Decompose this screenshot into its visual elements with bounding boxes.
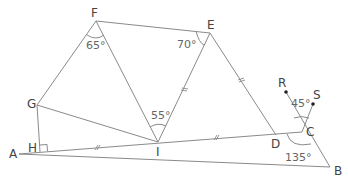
angle-label-RCS: 45° — [291, 97, 311, 110]
label-E: E — [207, 18, 215, 32]
label-C: C — [306, 125, 314, 139]
angle-arc-E — [196, 31, 204, 45]
label-H: H — [28, 141, 37, 155]
segment-GH — [37, 105, 40, 152]
geometry-diagram: F E G H A I D C B R S 65° 70° 55° 45° 13… — [0, 0, 348, 183]
segment-AB — [19, 154, 330, 167]
segment-GI — [37, 105, 158, 142]
tick-ID — [214, 135, 219, 140]
label-G: G — [27, 97, 36, 111]
label-I: I — [156, 145, 160, 159]
label-S: S — [313, 88, 321, 102]
angle-label-I: 55° — [151, 109, 171, 122]
segment-FE — [96, 21, 210, 33]
segment-AC — [19, 132, 302, 154]
point-S — [311, 102, 315, 106]
segment-ED — [210, 33, 276, 135]
point-R — [284, 90, 288, 94]
angle-label-F: 65° — [86, 39, 106, 52]
angle-arc-F — [87, 35, 104, 38]
tick-EI — [181, 88, 188, 91]
angle-arc-I — [150, 124, 166, 127]
right-angle-marker — [40, 145, 48, 152]
label-B: B — [334, 164, 342, 178]
angle-label-DCB: 135° — [285, 151, 312, 164]
angle-label-E: 70° — [177, 38, 197, 51]
label-A: A — [9, 147, 18, 161]
label-R: R — [278, 76, 286, 90]
label-D: D — [271, 137, 280, 151]
label-F: F — [91, 6, 98, 20]
segment-GF — [37, 21, 96, 105]
